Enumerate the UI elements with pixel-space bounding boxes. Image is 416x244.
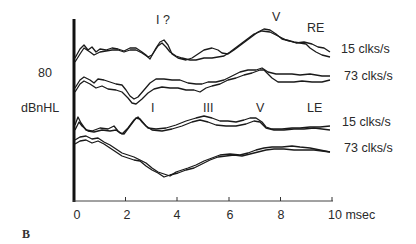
trace-re-15-b (75, 31, 330, 62)
x-tick-2: 2 (124, 209, 131, 222)
le-wave-V-label: V (256, 102, 264, 115)
le-rate-73-label: 73 clks/s (344, 142, 393, 155)
trace-re-73-a (75, 68, 330, 99)
re-wave-V-label: V (272, 11, 280, 24)
trace-re-73-b (75, 70, 330, 104)
le-wave-III-label: III (203, 102, 213, 115)
trace-le-15-a (75, 116, 330, 134)
le-rate-15-label: 15 clks/s (342, 116, 391, 129)
le-wave-I-label: I (151, 102, 154, 115)
le-ear-label: LE (307, 102, 322, 115)
x-tick-0: 0 (74, 209, 81, 222)
stimulus-level-unit: dBnHL (21, 102, 59, 115)
x-axis-ticks (126, 197, 333, 201)
x-tick-8: 8 (278, 209, 285, 222)
panel-letter: B (22, 227, 30, 242)
x-tick-6: 6 (227, 209, 234, 222)
abr-figure: 80 dBnHL I ? V RE 15 clks/s 73 clks/s I … (0, 0, 416, 244)
re-wave-I-label: I ? (156, 14, 170, 27)
trace-re-15-a (75, 29, 330, 60)
re-rate-73-label: 73 clks/s (344, 70, 393, 83)
x-tick-4: 4 (174, 209, 181, 222)
stimulus-level-value: 80 (38, 67, 52, 80)
re-rate-15-label: 15 clks/s (341, 43, 390, 56)
trace-le-73-a (75, 136, 330, 176)
x-tick-10-msec: 10 msec (328, 209, 375, 222)
re-ear-label: RE (307, 22, 324, 35)
